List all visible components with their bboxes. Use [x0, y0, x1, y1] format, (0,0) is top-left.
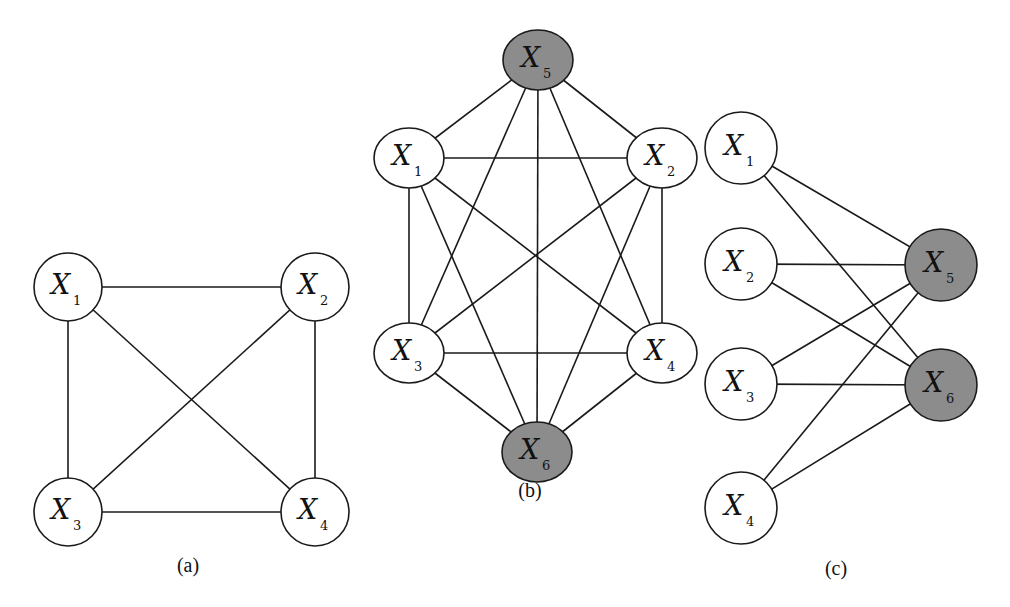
node-x2: X2: [281, 253, 349, 321]
node-label: X: [49, 494, 72, 525]
node-subscript: 6: [542, 458, 550, 473]
node-x6: X6: [502, 422, 572, 482]
edge-x1-x6: [409, 158, 537, 452]
node-subscript: 4: [320, 518, 328, 533]
caption-b: (b): [518, 479, 541, 502]
node-subscript: 6: [946, 391, 954, 406]
node-label: X: [922, 247, 945, 278]
edge-x2-x6: [537, 158, 662, 452]
node-x4: X4: [627, 323, 697, 383]
node-label: X: [722, 246, 745, 277]
diagram-canvas: X1X2X3X4(a)X5X1X2X3X4X6(b)X1X2X3X4X5X6(c…: [0, 0, 1010, 607]
node-label: X: [722, 490, 745, 521]
node-x2: X2: [705, 228, 777, 300]
node-x5: X5: [905, 229, 977, 301]
graph-b: X5X1X2X3X4X6(b): [374, 30, 697, 502]
node-x1: X1: [705, 112, 777, 184]
node-label: X: [296, 269, 319, 300]
node-label: X: [296, 494, 319, 525]
node-x3: X3: [34, 478, 102, 546]
node-label: X: [390, 335, 413, 366]
node-label: X: [518, 434, 541, 465]
edges: [68, 287, 315, 512]
node-x4: X4: [705, 472, 777, 544]
graph-a: X1X2X3X4(a): [34, 253, 349, 577]
edges: [741, 148, 941, 508]
node-x5: X5: [503, 30, 573, 90]
node-label: X: [49, 269, 72, 300]
node-subscript: 2: [667, 164, 675, 179]
node-subscript: 3: [746, 390, 754, 405]
graph-c: X1X2X3X4X5X6(c): [705, 112, 977, 580]
node-x1: X1: [34, 253, 102, 321]
node-subscript: 3: [414, 359, 422, 374]
node-subscript: 4: [667, 359, 675, 374]
nodes: X1X2X3X4X5X6: [705, 112, 977, 544]
node-label: X: [722, 366, 745, 397]
edge-x5-x3: [409, 60, 538, 353]
node-x3: X3: [374, 323, 444, 383]
node-subscript: 2: [746, 270, 754, 285]
edges: [409, 60, 662, 452]
node-x1: X1: [374, 128, 444, 188]
caption-c: (c): [825, 557, 847, 580]
node-subscript: 5: [543, 66, 551, 81]
node-label: X: [390, 140, 413, 171]
node-label: X: [922, 367, 945, 398]
node-x2: X2: [627, 128, 697, 188]
node-subscript: 5: [946, 271, 954, 286]
node-subscript: 1: [414, 164, 422, 179]
node-subscript: 1: [746, 154, 754, 169]
node-label: X: [722, 130, 745, 161]
node-subscript: 4: [746, 514, 754, 529]
node-label: X: [643, 140, 666, 171]
node-x3: X3: [705, 348, 777, 420]
node-x6: X6: [905, 349, 977, 421]
node-subscript: 2: [320, 293, 328, 308]
node-label: X: [519, 42, 542, 73]
caption-a: (a): [177, 554, 199, 577]
node-subscript: 3: [73, 518, 81, 533]
node-x4: X4: [281, 478, 349, 546]
node-label: X: [643, 335, 666, 366]
node-subscript: 1: [73, 293, 81, 308]
